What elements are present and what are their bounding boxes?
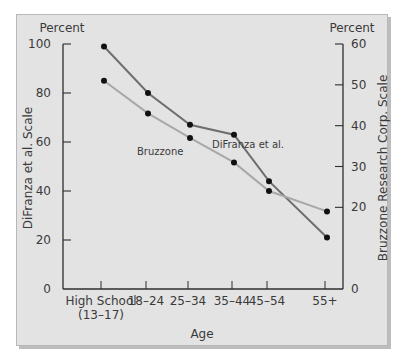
bruzzone-annotation: Bruzzone xyxy=(137,146,183,157)
data-point xyxy=(324,235,330,241)
x-tick-label: (13–17) xyxy=(78,308,124,322)
data-point xyxy=(145,90,151,96)
x-tick-label: 45–54 xyxy=(249,294,286,308)
right-tick-label: 60 xyxy=(351,37,366,51)
left-axis-title: DiFranza et al. Scale xyxy=(21,107,35,229)
x-tick-label: 18–24 xyxy=(128,294,165,308)
difranza-annotation: DiFranza et al. xyxy=(212,139,284,150)
axes: 02040608010002030405060High School(13–17… xyxy=(28,37,366,322)
left-tick-label: 100 xyxy=(28,37,51,51)
x-tick-label: 35–44 xyxy=(214,294,251,308)
x-tick-label: 25–34 xyxy=(170,294,207,308)
x-tick-label: High School xyxy=(65,294,136,308)
data-point xyxy=(266,178,272,184)
data-point xyxy=(187,122,193,128)
data-point xyxy=(187,135,193,141)
right-tick-label: 20 xyxy=(351,200,366,214)
right-axis-title: Bruzzone Research Corp. Scale xyxy=(376,75,390,262)
left-unit-label: Percent xyxy=(39,21,84,35)
data-point xyxy=(324,208,330,214)
x-axis-title: Age xyxy=(190,327,213,341)
right-tick-label: 50 xyxy=(351,78,366,92)
left-tick-label: 20 xyxy=(36,233,51,247)
left-tick-label: 80 xyxy=(36,86,51,100)
right-tick-label: 30 xyxy=(351,160,366,174)
right-unit-label: Percent xyxy=(329,21,374,35)
data-point xyxy=(266,188,272,194)
x-tick-label: 55+ xyxy=(312,294,337,308)
data-point xyxy=(101,78,107,84)
left-tick-label: 40 xyxy=(36,184,51,198)
data-point xyxy=(231,159,237,165)
left-tick-label: 60 xyxy=(36,135,51,149)
left-tick-label: 0 xyxy=(43,282,51,296)
axis-labels: Percent Percent DiFranza et al. Scale Br… xyxy=(21,21,390,341)
data-point xyxy=(231,132,237,138)
data-point xyxy=(145,110,151,116)
line-chart: 02040608010002030405060High School(13–17… xyxy=(0,0,402,360)
right-tick-label: 40 xyxy=(351,119,366,133)
data-point xyxy=(101,43,107,49)
right-tick-label: 0 xyxy=(351,282,359,296)
